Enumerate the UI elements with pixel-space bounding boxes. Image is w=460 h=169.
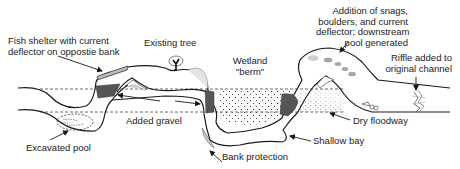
label-existing-tree: Existing tree [144, 38, 196, 49]
label-line: Existing tree [144, 38, 196, 49]
label-dry-floodway: Dry floodway [353, 116, 408, 127]
snags-boulders [308, 56, 356, 76]
label-line: Shallow bay [313, 136, 364, 147]
label-line: deflector on oppostie bank [8, 47, 119, 58]
label-snags-boulders: Addition of snags, boulders, and current… [316, 6, 408, 48]
label-fish-shelter: Fish shelter with current deflector on o… [8, 36, 119, 57]
label-line: Riffle added to [380, 53, 452, 64]
label-line: Dry floodway [353, 116, 408, 127]
label-line: Bank protection [222, 152, 288, 163]
riffle [412, 90, 426, 112]
label-excavated-pool: Excavated pool [26, 143, 91, 154]
left-upper-bank [18, 72, 110, 108]
added-gravel-right [280, 94, 298, 116]
label-line: original channel [380, 64, 452, 75]
label-wetland-berm: Wetland "berm" [226, 56, 274, 77]
added-gravel-left [96, 84, 120, 98]
label-line: pool generated [316, 38, 408, 49]
label-line: Wetland [226, 56, 274, 67]
label-line: Excavated pool [26, 143, 91, 154]
gravel-bar [117, 78, 206, 92]
label-shallow-bay: Shallow bay [313, 136, 364, 147]
label-line: deflector; downstream [316, 27, 408, 38]
label-added-gravel: Added gravel [126, 116, 182, 127]
label-line: Added gravel [126, 116, 182, 127]
added-gravel-center [205, 90, 214, 113]
label-line: Addition of snags, [316, 6, 408, 17]
label-line: Fish shelter with current [8, 36, 119, 47]
label-line: "berm" [226, 67, 274, 78]
label-bank-protection: Bank protection [222, 152, 288, 163]
fish-shelter [97, 66, 128, 80]
label-riffle: Riffle added to original channel [380, 53, 452, 74]
existing-tree-icon [169, 56, 183, 70]
boulders-floodway [362, 102, 378, 110]
bank-protection [202, 128, 214, 148]
excavated-pool [57, 114, 93, 130]
